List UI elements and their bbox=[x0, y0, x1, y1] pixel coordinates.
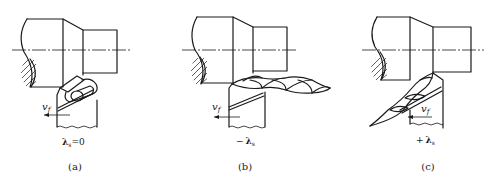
cutting-tool bbox=[400, 73, 443, 128]
caption-a: (a) bbox=[68, 161, 82, 172]
break-line bbox=[229, 126, 265, 128]
inclination-angle-label: +λs bbox=[416, 135, 435, 146]
feed-arrow: vf bbox=[408, 103, 432, 119]
panel-a: vf λs=0 (a) bbox=[12, 19, 130, 172]
section-hatch bbox=[364, 52, 390, 84]
break-line bbox=[410, 123, 443, 125]
inclination-angle-label: −λs bbox=[236, 136, 255, 147]
section-hatch bbox=[14, 56, 40, 90]
workpiece-body bbox=[21, 19, 63, 87]
caption-c: (c) bbox=[421, 161, 435, 172]
chip-helical bbox=[232, 76, 330, 93]
workpiece bbox=[12, 19, 130, 90]
turning-inclination-diagram: vf λs=0 (a) bbox=[0, 0, 497, 184]
feed-velocity-label: vf bbox=[212, 101, 222, 114]
cutting-tool bbox=[229, 84, 265, 128]
feed-velocity-label: vf bbox=[42, 101, 52, 114]
inclination-angle-label: λs=0 bbox=[62, 137, 85, 148]
chip-helical bbox=[370, 73, 433, 126]
break-line bbox=[57, 126, 97, 128]
workpiece-outline-top bbox=[27, 19, 117, 73]
feed-velocity-label: vf bbox=[421, 103, 431, 116]
caption-b: (b) bbox=[238, 161, 252, 172]
workpiece bbox=[362, 17, 484, 84]
panel-b: vf −λs (b) bbox=[182, 17, 330, 172]
panel-c: vf +λs (c) bbox=[362, 17, 484, 172]
workpiece bbox=[182, 17, 297, 88]
